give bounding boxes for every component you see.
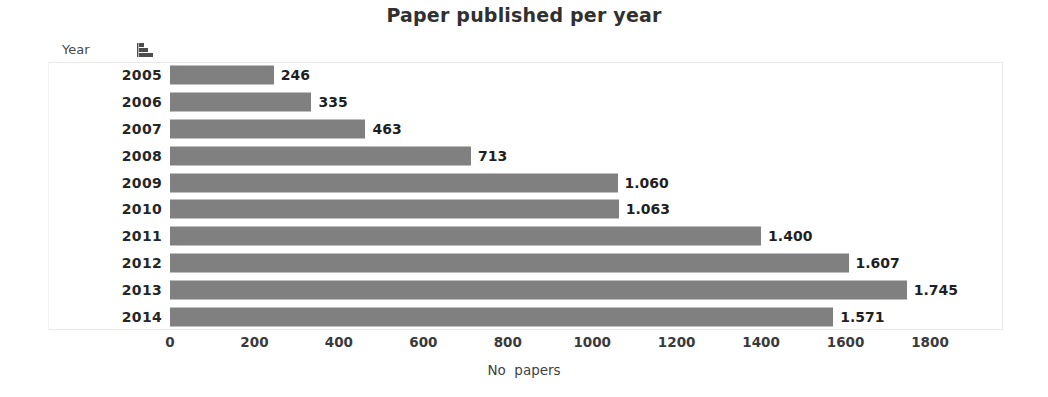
bar-2005[interactable] [170,66,274,85]
bar-track [170,280,907,299]
bar-value-2013: 1.745 [907,282,958,298]
bar-row: 2005246 [0,62,1048,89]
bar-value-2012: 1.607 [849,255,900,271]
category-label-2010: 2010 [122,201,170,217]
bar-2008[interactable] [170,146,471,165]
bar-value-2006: 335 [311,94,347,110]
category-label-2005: 2005 [122,67,170,83]
x-tick-0: 0 [165,334,174,350]
bar-value-2009: 1.060 [618,175,669,191]
category-label-2007: 2007 [122,121,170,137]
category-label-2012: 2012 [122,255,170,271]
bar-2010[interactable] [170,200,619,219]
bar-rows-container: 200524620063352007463200871320091.060201… [0,62,1048,330]
x-tick-1000: 1000 [573,334,611,350]
bar-2006[interactable] [170,93,311,112]
bar-track [170,253,849,272]
bar-row: 20111.400 [0,223,1048,250]
bar-track [170,200,619,219]
category-label-2006: 2006 [122,94,170,110]
bar-row: 20141.571 [0,303,1048,330]
bar-track [170,173,618,192]
x-tick-1800: 1800 [911,334,949,350]
bar-2013[interactable] [170,280,907,299]
bar-track [170,227,761,246]
bar-value-2005: 246 [274,67,310,83]
x-tick-1200: 1200 [658,334,696,350]
x-tick-1400: 1400 [742,334,780,350]
bar-value-2014: 1.571 [833,309,884,325]
bar-2012[interactable] [170,253,849,272]
chart-title: Paper published per year [0,4,1048,26]
category-label-2014: 2014 [122,309,170,325]
category-label-2013: 2013 [122,282,170,298]
category-axis-header: Year [0,42,1048,64]
bar-track [170,93,311,112]
x-tick-1600: 1600 [827,334,865,350]
bar-track [170,66,274,85]
bar-row: 20131.745 [0,276,1048,303]
x-axis-title: No papers [0,362,1048,378]
category-label-2008: 2008 [122,148,170,164]
category-label-2009: 2009 [122,175,170,191]
ascending-bars-icon[interactable] [136,42,158,60]
bar-row: 2007463 [0,116,1048,143]
bar-2007[interactable] [170,119,365,138]
bar-row: 20101.063 [0,196,1048,223]
bar-value-2011: 1.400 [761,228,812,244]
bar-row: 2008713 [0,142,1048,169]
bar-value-2007: 463 [365,121,401,137]
bar-2011[interactable] [170,227,761,246]
x-tick-600: 600 [409,334,437,350]
bar-2014[interactable] [170,307,833,326]
x-axis-ticks: 020040060080010001200140016001800 [0,330,1048,356]
y-axis-title: Year [62,42,90,57]
bar-row: 20091.060 [0,169,1048,196]
bar-row: 20121.607 [0,250,1048,277]
x-tick-200: 200 [240,334,268,350]
bar-2009[interactable] [170,173,618,192]
x-tick-800: 800 [494,334,522,350]
bar-track [170,307,833,326]
bar-value-2010: 1.063 [619,201,670,217]
bar-value-2008: 713 [471,148,507,164]
bar-row: 2006335 [0,89,1048,116]
category-label-2011: 2011 [122,228,170,244]
bar-track [170,146,471,165]
x-tick-400: 400 [325,334,353,350]
bar-track [170,119,365,138]
